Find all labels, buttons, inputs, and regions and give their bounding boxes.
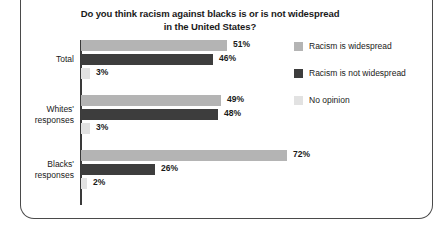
- bar-group-blacks: 72% 26% 2%: [80, 150, 290, 192]
- bar-row: 3%: [80, 123, 290, 134]
- bar-group-total: 51% 46% 3%: [80, 40, 290, 82]
- bar-value-label: 48%: [224, 108, 241, 118]
- category-label-blacks: Blacks' responses: [12, 159, 74, 180]
- legend-swatch-icon: [294, 96, 303, 105]
- bar-row: 3%: [80, 68, 290, 79]
- bar-row: 48%: [80, 109, 290, 120]
- bar-total-not-widespread: [81, 54, 213, 65]
- plot-area: 51% 46% 3% 49% 48% 3%: [80, 40, 290, 205]
- bar-blacks-no-opinion: [81, 178, 87, 189]
- legend-item-widespread[interactable]: Racism is widespread: [294, 41, 434, 53]
- bar-total-no-opinion: [81, 68, 90, 79]
- bar-whites-no-opinion: [81, 123, 90, 134]
- bar-whites-widespread: [81, 95, 221, 106]
- bar-group-whites: 49% 48% 3%: [80, 95, 290, 137]
- legend-swatch-icon: [294, 69, 303, 78]
- bar-row: 26%: [80, 164, 290, 175]
- legend-item-not-widespread[interactable]: Racism is not widespread: [294, 68, 434, 80]
- legend-label: Racism is not widespread: [309, 68, 406, 78]
- bar-row: 2%: [80, 178, 290, 189]
- bar-value-label: 2%: [93, 177, 105, 187]
- category-label-whites: Whites' responses: [12, 104, 74, 125]
- category-axis-labels: Total Whites' responses Blacks' response…: [10, 40, 74, 205]
- bar-value-label: 3%: [96, 67, 108, 77]
- chart-title-line-1: Do you think racism against blacks is or…: [52, 8, 368, 21]
- bar-value-label: 51%: [233, 39, 250, 49]
- bar-value-label: 72%: [293, 149, 310, 159]
- bar-row: 51%: [80, 40, 290, 51]
- bar-blacks-widespread: [81, 150, 287, 161]
- bar-value-label: 3%: [96, 122, 108, 132]
- chart-title: Do you think racism against blacks is or…: [52, 8, 368, 33]
- bar-row: 46%: [80, 54, 290, 65]
- bar-row: 49%: [80, 95, 290, 106]
- bar-value-label: 26%: [161, 163, 178, 173]
- chart-title-line-2: in the United States?: [52, 21, 368, 34]
- bar-whites-not-widespread: [81, 109, 218, 120]
- chart-legend: Racism is widespread Racism is not wides…: [294, 41, 434, 122]
- chart-figure: Do you think racism against blacks is or…: [0, 0, 448, 239]
- bar-row: 72%: [80, 150, 290, 161]
- bar-blacks-not-widespread: [81, 164, 155, 175]
- legend-label: No opinion: [309, 95, 350, 105]
- legend-label: Racism is widespread: [309, 41, 392, 51]
- bar-value-label: 46%: [219, 53, 236, 63]
- legend-item-no-opinion[interactable]: No opinion: [294, 95, 434, 107]
- category-label-total: Total: [12, 54, 74, 65]
- bar-total-widespread: [81, 40, 227, 51]
- bar-value-label: 49%: [227, 94, 244, 104]
- legend-swatch-icon: [294, 42, 303, 51]
